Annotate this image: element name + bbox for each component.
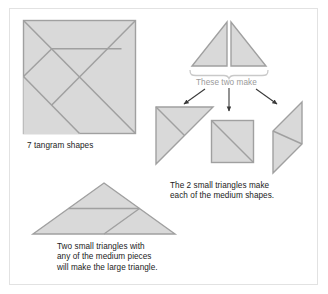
small-triangle-right	[231, 22, 266, 66]
medium-parallelogram-group	[273, 102, 302, 173]
tangram-square-group	[24, 21, 136, 135]
small-triangle-left	[192, 22, 227, 66]
caption-medium-shapes: The 2 small triangles make each of the m…	[170, 181, 274, 202]
caption-large-triangle: Two small triangles with any of the medi…	[57, 242, 158, 273]
large-triangle-group	[33, 183, 175, 234]
caption-these-two-make: These two make	[196, 78, 257, 88]
medium-square-group	[212, 121, 254, 163]
arrow-to-parallelogram	[256, 89, 277, 104]
medium-triangle-group	[156, 107, 213, 164]
caption-tangram-square: 7 tangram shapes	[27, 141, 93, 151]
arrow-to-medium-triangle	[184, 89, 205, 104]
figure-canvas: 7 tangram shapes These two make The 2 sm…	[0, 0, 328, 294]
small-triangles-group	[192, 22, 266, 66]
